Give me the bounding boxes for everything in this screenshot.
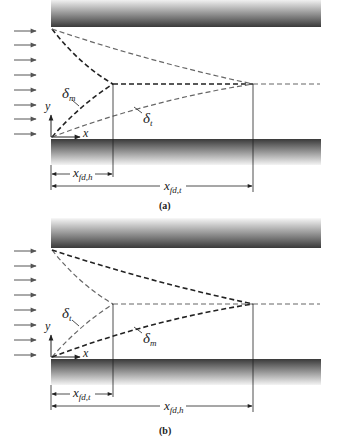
delta-t-label: δt: [62, 305, 72, 323]
x-axis-label: x: [82, 346, 89, 360]
x-axis-label: x: [82, 126, 89, 140]
momentum-boundary-layer-curve: [52, 250, 253, 304]
bottom-plate: [51, 359, 321, 385]
delta-m-label: δm: [62, 85, 76, 103]
inflow-arrows: [14, 251, 36, 355]
top-plate: [51, 0, 321, 27]
x-fd-t-label: xfd,t: [72, 385, 91, 402]
bottom-plate: [51, 139, 321, 165]
inflow-arrows: [14, 31, 36, 134]
momentum-boundary-layer-curve: [52, 29, 113, 84]
y-axis-label: y: [44, 319, 51, 333]
thermal-boundary-layer-curve: [52, 250, 113, 304]
x-fd-h-label: xfd,h: [163, 398, 184, 415]
top-plate: [51, 219, 321, 248]
delta-m-label: δm: [143, 330, 157, 348]
panel-b: y x δt δm xfd,t xfd,h (b): [14, 219, 321, 437]
y-axis-label: y: [44, 99, 51, 113]
delta-t-label: δt: [143, 110, 153, 128]
caption-b: (b): [159, 425, 171, 437]
thermal-boundary-layer-curve: [52, 29, 253, 84]
channel-flow-diagram: y x δm δt xfd,h xfd,t (a): [0, 0, 338, 444]
panel-a: y x δm δt xfd,h xfd,t (a): [14, 0, 321, 212]
x-fd-t-label: xfd,t: [163, 178, 182, 195]
x-fd-h-label: xfd,h: [72, 165, 93, 182]
caption-a: (a): [159, 200, 171, 212]
